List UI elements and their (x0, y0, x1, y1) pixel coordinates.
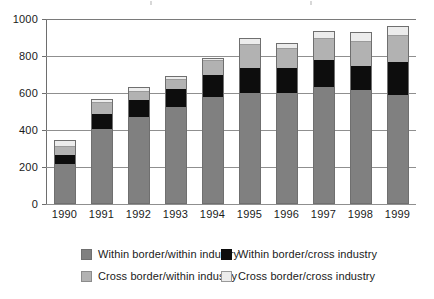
legend-swatch-icon (81, 271, 92, 282)
bar-segment (387, 26, 409, 36)
x-tick-label: 1996 (268, 207, 305, 227)
y-tick-label: 600 (19, 88, 38, 99)
bar-slot (342, 19, 379, 204)
bar-segment (165, 107, 187, 204)
bar-segment (239, 93, 261, 204)
bar-slot (157, 19, 194, 204)
legend-item-cross-border-cross-industry[interactable]: Cross border/cross industry (197, 265, 434, 287)
bar-segment (313, 39, 335, 59)
bar-series-container (46, 19, 416, 204)
bar-slot (268, 19, 305, 204)
gridline-0 (46, 204, 416, 205)
stacked-bar[interactable] (54, 140, 76, 204)
y-tick (42, 204, 46, 205)
stacked-bar[interactable] (202, 58, 224, 204)
legend-swatch-icon (221, 249, 232, 260)
legend-label: Cross border/cross industry (238, 270, 375, 282)
bar-segment (239, 38, 261, 45)
y-tick-label: 0 (32, 199, 38, 210)
x-axis-labels: 1990199119921993199419951996199719981999 (46, 207, 416, 227)
stacked-bar[interactable] (387, 26, 409, 205)
legend-label: Within border/cross industry (238, 248, 377, 260)
x-tick-label: 1992 (120, 207, 157, 227)
bar-slot (194, 19, 231, 204)
x-tick-label: 1998 (342, 207, 379, 227)
bar-segment (387, 62, 409, 95)
legend-swatch-icon (81, 249, 92, 260)
bar-segment (387, 95, 409, 204)
y-tick-label: 800 (19, 51, 38, 62)
chart-root: 1000 800 600 400 200 0 19901991199219931… (0, 0, 434, 299)
stacked-bar[interactable] (276, 43, 298, 204)
y-tick-label: 200 (19, 162, 38, 173)
bar-slot (46, 19, 83, 204)
bar-segment (128, 100, 150, 117)
bar-slot (231, 19, 268, 204)
bar-segment (276, 68, 298, 93)
bar-slot (83, 19, 120, 204)
x-tick-label: 1991 (83, 207, 120, 227)
stacked-bar[interactable] (91, 99, 113, 204)
bar-segment (202, 61, 224, 76)
stacked-bar[interactable] (350, 32, 372, 204)
legend-swatch-icon (221, 271, 232, 282)
bar-segment (387, 36, 409, 62)
x-tick-label: 1994 (194, 207, 231, 227)
bar-segment (239, 68, 261, 93)
bar-segment (202, 97, 224, 204)
stacked-bar[interactable] (239, 38, 261, 204)
legend-row: Cross border/within industry Cross borde… (0, 265, 434, 287)
x-tick-label: 1997 (305, 207, 342, 227)
legend-row: Within border/within industry Within bor… (0, 243, 434, 265)
bar-segment (54, 155, 76, 164)
bar-segment (350, 90, 372, 204)
bar-segment (54, 164, 76, 204)
x-tick-label: 1990 (46, 207, 83, 227)
bar-segment (91, 103, 113, 114)
legend-item-within-border-cross-industry[interactable]: Within border/cross industry (197, 243, 434, 265)
bar-segment (239, 45, 261, 68)
bar-segment (165, 89, 187, 107)
x-tick-label: 1993 (157, 207, 194, 227)
legend-item-within-border-within-industry[interactable]: Within border/within industry (0, 243, 197, 265)
stacked-bar[interactable] (128, 87, 150, 204)
bar-segment (54, 147, 76, 155)
bar-slot (120, 19, 157, 204)
bar-segment (91, 129, 113, 204)
bar-segment (313, 87, 335, 204)
bar-segment (276, 93, 298, 204)
bar-segment (91, 114, 113, 129)
bar-segment (313, 60, 335, 87)
y-axis-labels: 1000 800 600 400 200 0 (0, 0, 44, 232)
bar-segment (350, 32, 372, 42)
x-tick-label: 1995 (231, 207, 268, 227)
y-tick-label: 400 (19, 125, 38, 136)
legend-item-cross-border-within-industry[interactable]: Cross border/within industry (0, 265, 197, 287)
plot-area: 1000 800 600 400 200 0 19901991199219931… (0, 0, 434, 232)
chart-legend: Within border/within industry Within bor… (0, 243, 434, 295)
stacked-bar[interactable] (165, 76, 187, 204)
bar-segment (276, 49, 298, 68)
bar-segment (350, 66, 372, 90)
bar-segment (313, 31, 335, 39)
x-tick-label: 1999 (379, 207, 416, 227)
bar-segment (202, 75, 224, 96)
bar-segment (128, 117, 150, 204)
stacked-bar[interactable] (313, 31, 335, 204)
bar-segment (128, 92, 150, 100)
bar-slot (379, 19, 416, 204)
y-tick-label: 1000 (13, 14, 38, 25)
bar-slot (305, 19, 342, 204)
bar-segment (350, 42, 372, 66)
bar-segment (165, 80, 187, 89)
